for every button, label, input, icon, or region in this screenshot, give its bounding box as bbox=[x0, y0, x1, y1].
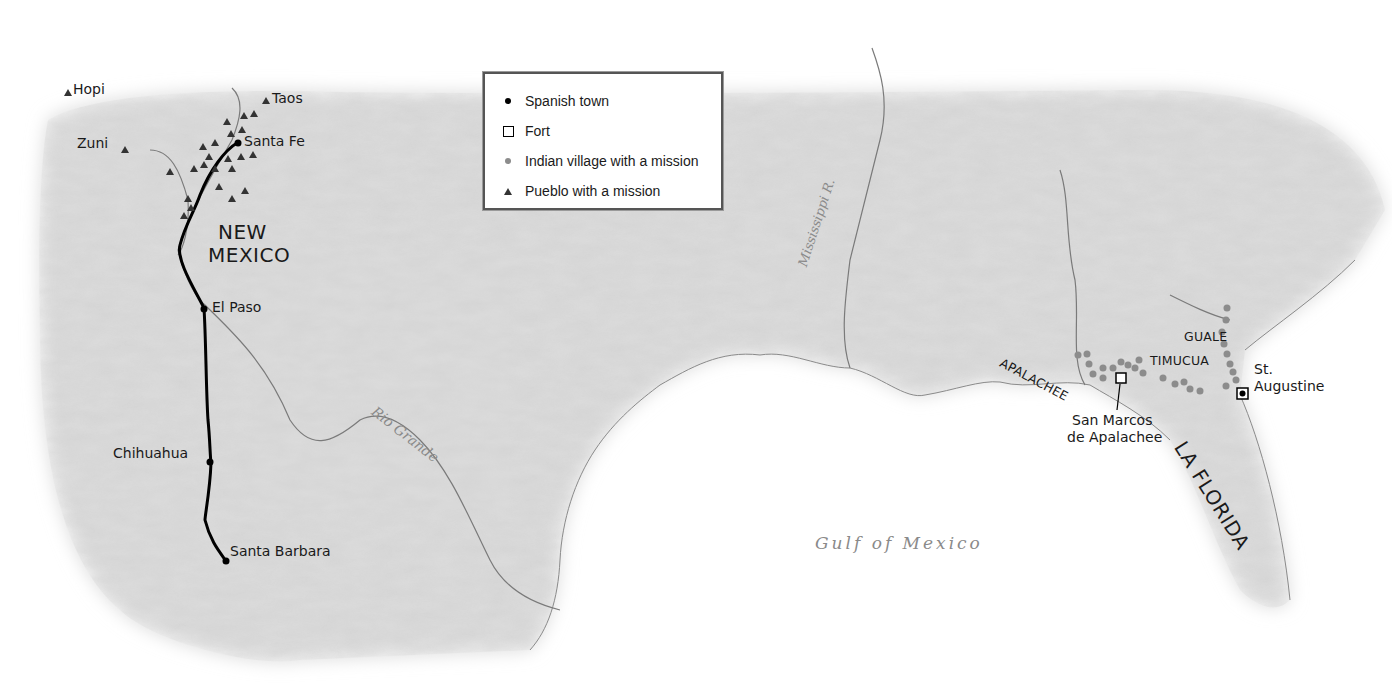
santa-fe-dot bbox=[235, 140, 242, 147]
chihuahua-dot bbox=[207, 459, 214, 466]
san-marcos-label-line2: de Apalachee bbox=[1067, 430, 1162, 445]
mission-village-icon bbox=[503, 158, 525, 164]
santa-fe-label: Santa Fe bbox=[244, 134, 305, 149]
new-mexico-label-line1: NEW bbox=[218, 222, 267, 243]
legend-label: Fort bbox=[525, 123, 550, 139]
legend-item-indian-village: Indian village with a mission bbox=[503, 146, 721, 176]
el-paso-label: El Paso bbox=[212, 300, 261, 315]
taos-label: Taos bbox=[272, 91, 303, 106]
hopi-label: Hopi bbox=[73, 82, 105, 97]
legend-item-pueblo: Pueblo with a mission bbox=[503, 176, 721, 206]
san-marcos-label-line1: San Marcos bbox=[1072, 413, 1152, 428]
st-augustine-label-line1: St. bbox=[1254, 362, 1273, 377]
st-augustine-label-line2: Augustine bbox=[1254, 379, 1324, 394]
st-augustine-dot bbox=[1240, 391, 1246, 397]
san-marcos-fort-icon bbox=[1116, 373, 1126, 383]
pueblo-icon bbox=[503, 188, 525, 195]
gulf-of-mexico-label: Gulf of Mexico bbox=[815, 535, 983, 553]
legend-label: Spanish town bbox=[525, 93, 609, 109]
guale-label: GUALE bbox=[1184, 330, 1227, 343]
legend-label: Indian village with a mission bbox=[525, 153, 699, 169]
el-paso-dot bbox=[201, 306, 208, 313]
santa-barbara-dot bbox=[223, 558, 230, 565]
zuni-label: Zuni bbox=[77, 136, 108, 151]
legend-item-fort: Fort bbox=[503, 116, 721, 146]
chihuahua-label: Chihuahua bbox=[113, 446, 188, 461]
fort-icon bbox=[503, 126, 525, 137]
timucua-label: TIMUCUA bbox=[1150, 354, 1209, 367]
map-legend: Spanish town Fort Indian village with a … bbox=[483, 72, 723, 210]
legend-item-spanish-town: Spanish town bbox=[503, 86, 721, 116]
legend-label: Pueblo with a mission bbox=[525, 183, 660, 199]
spanish-town-icon bbox=[503, 98, 525, 104]
pueblo-icon bbox=[64, 89, 72, 96]
santa-barbara-label: Santa Barbara bbox=[230, 544, 331, 559]
new-mexico-label-line2: MEXICO bbox=[208, 245, 290, 266]
